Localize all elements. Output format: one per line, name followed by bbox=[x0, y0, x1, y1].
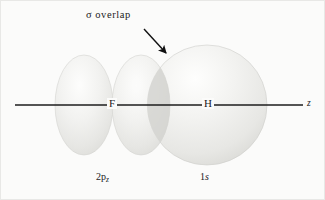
p-orbital-subscript: z bbox=[106, 175, 109, 184]
atom-label-fluorine: F bbox=[107, 98, 117, 109]
p-orbital-base: 2p bbox=[96, 171, 106, 182]
sigma-symbol: σ bbox=[86, 9, 92, 20]
orbital-diagram-canvas bbox=[0, 0, 325, 200]
p-orbital-caption: 2pz bbox=[96, 172, 109, 183]
orbital-overlap-figure: σoverlap F H z 2pz 1s bbox=[0, 0, 325, 200]
atom-label-hydrogen: H bbox=[202, 98, 214, 109]
sigma-overlap-label: σoverlap bbox=[86, 10, 131, 21]
sigma-overlap-text: overlap bbox=[95, 9, 131, 20]
z-axis-label: z bbox=[307, 99, 311, 109]
s-orbital-caption: 1s bbox=[200, 172, 209, 182]
overlap-pointer-arrow bbox=[144, 29, 166, 53]
s-orbital-subscript: s bbox=[205, 171, 209, 182]
